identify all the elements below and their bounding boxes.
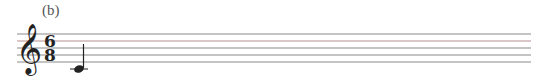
treble-clef-icon: 𝄞 [16, 22, 42, 76]
time-signature-denominator: 8 [44, 45, 56, 65]
staff-lines [17, 34, 531, 62]
music-staff: 𝄞 6 8 [0, 0, 545, 81]
time-signature: 6 8 [44, 31, 56, 65]
